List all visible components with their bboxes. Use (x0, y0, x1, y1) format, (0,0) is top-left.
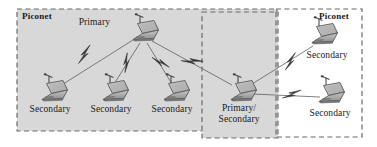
node-label-bridge-line1: Primary/ (222, 103, 256, 114)
figure-canvas: Piconet Piconet Primary Secondary Second… (0, 0, 377, 147)
node-label-secondary-right-top: Secondary (307, 50, 348, 61)
zone-label-left-piconet: Piconet (22, 11, 52, 22)
node-label-primary: Primary (79, 17, 110, 28)
node-secondary-right-bottom-laptop-icon[interactable] (319, 75, 345, 103)
zone-label-right-piconet: Piconet (319, 11, 349, 22)
diagram-svg (0, 0, 377, 147)
node-label-secondary-2: Secondary (91, 104, 132, 115)
node-label-bridge-line2: Secondary (219, 114, 260, 125)
node-label-secondary-right-bottom: Secondary (310, 108, 351, 119)
lightning-bolt-icon-6 (282, 89, 301, 100)
node-label-secondary-1: Secondary (30, 104, 71, 115)
node-label-secondary-3: Secondary (152, 104, 193, 115)
lightning-bolt-icon-5 (280, 53, 300, 71)
